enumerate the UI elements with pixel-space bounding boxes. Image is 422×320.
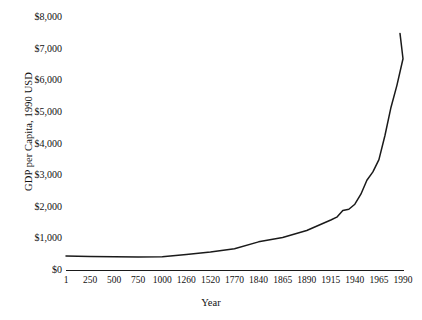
x-axis-line bbox=[66, 270, 404, 271]
x-axis-tick-label: 750 bbox=[131, 274, 145, 286]
y-axis-tick-label: $6,000 bbox=[0, 75, 62, 85]
x-axis-tick-label: 250 bbox=[83, 274, 97, 286]
x-axis-tick-label: 1915 bbox=[321, 274, 340, 286]
y-axis-tick-label: $1,000 bbox=[0, 233, 62, 243]
x-axis-tick-label: 1965 bbox=[369, 274, 388, 286]
x-axis-tick-labels: 1250500750100012601520177018401865189019… bbox=[0, 274, 422, 290]
x-axis-tick-label: 1 bbox=[64, 274, 69, 286]
y-axis-tick-label: $7,000 bbox=[0, 44, 62, 54]
x-axis-tick-label: 1990 bbox=[394, 274, 413, 286]
y-axis-tick-label: $4,000 bbox=[0, 139, 62, 149]
x-axis-tick-label: 1260 bbox=[177, 274, 196, 286]
y-axis-tick-label: $2,000 bbox=[0, 202, 62, 212]
gdp-line-series bbox=[66, 33, 403, 256]
x-axis-tick-label: 1840 bbox=[249, 274, 268, 286]
x-axis-tick-label: 1000 bbox=[153, 274, 172, 286]
x-axis-tick-label: 1940 bbox=[345, 274, 364, 286]
series-plot-area bbox=[0, 0, 422, 320]
y-axis-tick-label: $8,000 bbox=[0, 12, 62, 22]
gdp-per-capita-chart: GDP per Capita, 1990 USD $8,000$7,000$6,… bbox=[0, 0, 422, 320]
x-axis-tick-label: 500 bbox=[107, 274, 121, 286]
x-axis-tick-label: 1770 bbox=[225, 274, 244, 286]
y-axis-tick-label: $5,000 bbox=[0, 107, 62, 117]
x-axis-tick-label: 1520 bbox=[201, 274, 220, 286]
x-axis-tick-label: 1865 bbox=[273, 274, 292, 286]
x-axis-tick-label: 1890 bbox=[297, 274, 316, 286]
y-axis-tick-labels: $8,000$7,000$6,000$5,000$4,000$3,000$2,0… bbox=[0, 0, 62, 320]
x-axis-title: Year bbox=[0, 297, 422, 308]
y-axis-tick-label: $3,000 bbox=[0, 170, 62, 180]
